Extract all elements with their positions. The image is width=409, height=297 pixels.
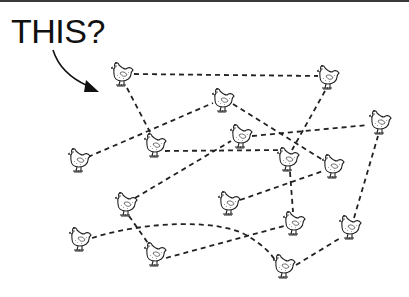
- chicken-icon-11: [218, 191, 240, 215]
- chicken-icon-2: [317, 65, 339, 89]
- chicken-icon-6: [144, 133, 166, 157]
- connection-6-8: [165, 150, 282, 151]
- connection-8-12: [290, 172, 293, 212]
- chicken-network-diagram: [0, 0, 409, 297]
- connection-14-16-curve: [92, 224, 276, 262]
- chicken-icon-12: [283, 211, 305, 235]
- chicken-icon-5: [230, 124, 252, 148]
- chicken-icon-8: [277, 147, 299, 171]
- connection-10-15: [129, 216, 150, 246]
- connection-11-9: [240, 171, 323, 200]
- chicken-icon-4: [369, 110, 391, 134]
- connection-5-4: [252, 125, 368, 136]
- connection-1-2: [134, 74, 318, 76]
- connection-1-6: [127, 88, 151, 134]
- connection-15-12: [166, 226, 284, 258]
- chicken-icon-9: [322, 154, 344, 178]
- pointer-arrow: [53, 50, 99, 92]
- connection-13-4: [354, 136, 378, 218]
- chicken-icon-16: [273, 254, 295, 278]
- connection-2-8: [292, 91, 325, 150]
- chicken-icon-13: [339, 215, 361, 239]
- chicken-icon-14: [69, 227, 91, 251]
- chicken-icon-15: [144, 242, 166, 266]
- connection-16-13: [296, 237, 342, 265]
- chickens: [68, 62, 391, 278]
- chicken-icon-7: [68, 148, 90, 172]
- chicken-icon-1: [111, 62, 133, 86]
- chicken-icon-3: [212, 88, 234, 112]
- chicken-icon-10: [115, 192, 137, 216]
